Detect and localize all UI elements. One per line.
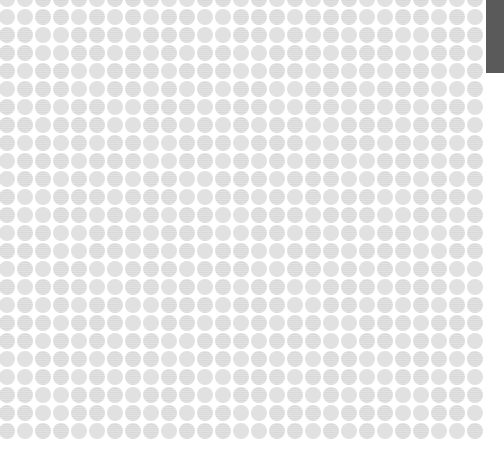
grid-dot: [0, 423, 15, 439]
grid-dot: [17, 333, 33, 349]
grid-dot: [341, 225, 357, 241]
grid-dot: [269, 135, 285, 151]
grid-dot: [323, 315, 339, 331]
grid-dot: [323, 153, 339, 169]
grid-dot: [17, 225, 33, 241]
grid-dot: [431, 189, 447, 205]
grid-dot: [53, 315, 69, 331]
grid-dot: [53, 351, 69, 367]
grid-dot: [359, 117, 375, 133]
grid-dot: [341, 171, 357, 187]
grid-dot: [161, 81, 177, 97]
grid-dot: [269, 153, 285, 169]
grid-dot: [467, 297, 483, 313]
grid-dot: [197, 351, 213, 367]
grid-dot: [305, 333, 321, 349]
grid-dot: [233, 99, 249, 115]
grid-dot: [125, 207, 141, 223]
grid-dot: [53, 135, 69, 151]
grid-dot: [143, 351, 159, 367]
grid-dot: [413, 243, 429, 259]
grid-dot: [341, 423, 357, 439]
grid-dot: [449, 45, 465, 61]
grid-dot: [341, 0, 357, 7]
grid-dot: [71, 333, 87, 349]
grid-dot: [143, 117, 159, 133]
grid-dot: [125, 315, 141, 331]
grid-dot: [431, 225, 447, 241]
grid-dot: [359, 9, 375, 25]
grid-dot: [467, 315, 483, 331]
grid-dot: [233, 405, 249, 421]
grid-dot: [449, 351, 465, 367]
grid-dot: [431, 99, 447, 115]
grid-dot: [197, 135, 213, 151]
grid-dot: [197, 333, 213, 349]
grid-dot: [143, 333, 159, 349]
grid-dot: [71, 45, 87, 61]
grid-dot: [251, 333, 267, 349]
grid-dot: [341, 9, 357, 25]
grid-dot: [35, 45, 51, 61]
grid-dot: [431, 63, 447, 79]
grid-dot: [143, 225, 159, 241]
grid-dot: [215, 207, 231, 223]
grid-dot: [467, 135, 483, 151]
grid-dot: [467, 243, 483, 259]
grid-dot: [0, 63, 15, 79]
grid-dot: [449, 225, 465, 241]
grid-dot: [305, 243, 321, 259]
scrollbar-thumb[interactable]: [486, 0, 504, 73]
grid-dot: [53, 207, 69, 223]
grid-dot: [323, 333, 339, 349]
grid-dot: [323, 279, 339, 295]
grid-dot: [53, 261, 69, 277]
grid-dot: [179, 369, 195, 385]
grid-dot: [197, 207, 213, 223]
grid-dot: [269, 423, 285, 439]
grid-dot: [269, 405, 285, 421]
grid-dot: [251, 243, 267, 259]
grid-dot: [71, 387, 87, 403]
grid-dot: [377, 369, 393, 385]
grid-dot: [287, 423, 303, 439]
grid-dot: [323, 297, 339, 313]
grid-dot: [215, 99, 231, 115]
grid-dot: [107, 279, 123, 295]
grid-dot: [107, 387, 123, 403]
grid-dot: [197, 279, 213, 295]
grid-dot: [233, 9, 249, 25]
grid-dot: [233, 261, 249, 277]
grid-dot: [107, 351, 123, 367]
grid-dot: [269, 243, 285, 259]
grid-dot: [35, 207, 51, 223]
grid-dot: [107, 333, 123, 349]
grid-dot: [125, 63, 141, 79]
grid-dot: [179, 117, 195, 133]
grid-dot: [0, 279, 15, 295]
grid-dot: [125, 387, 141, 403]
grid-dot: [467, 423, 483, 439]
grid-dot: [323, 63, 339, 79]
grid-dot: [449, 405, 465, 421]
grid-dot: [71, 81, 87, 97]
grid-dot: [323, 225, 339, 241]
grid-dot: [269, 297, 285, 313]
grid-dot: [17, 189, 33, 205]
grid-dot: [233, 171, 249, 187]
grid-dot: [179, 225, 195, 241]
grid-dot: [305, 135, 321, 151]
grid-dot: [287, 153, 303, 169]
grid-dot: [53, 99, 69, 115]
grid-dot: [323, 0, 339, 7]
grid-dot: [89, 9, 105, 25]
grid-dot: [395, 207, 411, 223]
grid-dot: [305, 171, 321, 187]
grid-dot: [143, 279, 159, 295]
grid-dot: [143, 45, 159, 61]
grid-dot: [395, 351, 411, 367]
grid-dot: [431, 387, 447, 403]
grid-dot: [161, 243, 177, 259]
grid-dot: [197, 153, 213, 169]
grid-dot: [197, 27, 213, 43]
